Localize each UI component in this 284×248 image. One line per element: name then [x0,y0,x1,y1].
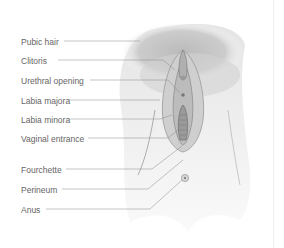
label-labia-majora: Labia majora [21,96,70,106]
label-pubic-hair: Pubic hair [21,37,59,47]
label-perineum: Perineum [21,185,57,195]
label-urethral-opening: Urethral opening [21,76,84,86]
label-vaginal-entrance: Vaginal entrance [21,134,84,144]
label-anus: Anus [21,205,40,215]
divider [273,0,274,248]
label-fourchette: Fourchette [21,165,62,175]
label-labia-minora: Labia minora [21,115,70,125]
label-clitoris: Clitoris [21,56,47,66]
